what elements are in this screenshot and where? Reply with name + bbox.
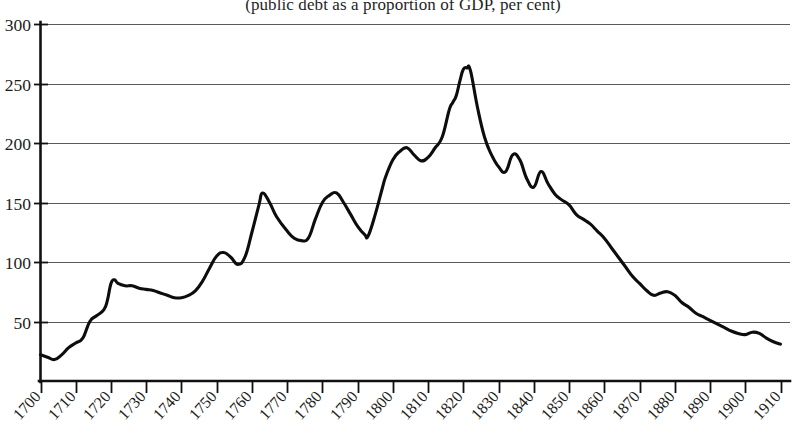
x-axis-tick-label: 1760 [221, 388, 255, 423]
x-axis-labels: 1700171017201730174017501760177017801790… [10, 388, 784, 423]
x-axis-tick-label: 1710 [45, 388, 79, 423]
x-axis-tick-label: 1840 [503, 388, 537, 423]
debt-gdp-line-series [41, 66, 781, 360]
x-axis-tick-label: 1720 [80, 388, 114, 423]
x-axis-tick-label: 1830 [468, 388, 502, 423]
y-axis-labels: 30025020015010050 [5, 15, 32, 333]
x-axis-tick-label: 1740 [150, 388, 184, 423]
x-axis-ticks [42, 381, 782, 393]
y-axis-tick-label: 300 [5, 15, 32, 35]
x-axis-tick-label: 1880 [644, 388, 678, 423]
y-axis-tick-label: 150 [5, 194, 32, 214]
debt-to-gdp-chart: (public debt as a proportion of GDP, per… [0, 0, 806, 441]
x-axis-tick-label: 1730 [115, 388, 149, 423]
y-axis-tick-label: 50 [14, 313, 32, 333]
gridlines [41, 25, 790, 323]
x-axis-tick-label: 1820 [432, 388, 466, 423]
x-axis-tick-label: 1900 [714, 388, 748, 423]
y-axis-tick-label: 200 [5, 134, 32, 154]
x-axis-tick-label: 1750 [186, 388, 220, 423]
chart-plot-area: 30025020015010050 1700171017201730174017… [0, 0, 806, 441]
x-axis-tick-label: 1860 [573, 388, 607, 423]
x-axis-tick-label: 1870 [609, 388, 643, 423]
x-axis-tick-label: 1810 [397, 388, 431, 423]
y-axis-tick-label: 100 [5, 253, 32, 273]
x-axis-tick-label: 1770 [256, 388, 290, 423]
x-axis-tick-label: 1700 [10, 388, 44, 423]
x-axis-tick-label: 1890 [679, 388, 713, 423]
x-axis-tick-label: 1780 [291, 388, 325, 423]
x-axis-tick-label: 1910 [750, 388, 784, 423]
x-axis-tick-label: 1790 [327, 388, 361, 423]
x-axis-tick-label: 1850 [538, 388, 572, 423]
x-axis-tick-label: 1800 [362, 388, 396, 423]
y-axis-tick-label: 250 [5, 75, 32, 95]
